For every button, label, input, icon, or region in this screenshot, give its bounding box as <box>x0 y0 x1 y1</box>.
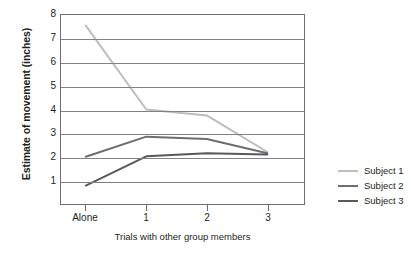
legend-color-swatch <box>338 170 358 172</box>
gridline <box>61 134 304 135</box>
y-tick-label: 4 <box>40 105 56 115</box>
line-chart-figure: Estimate of movement (inches) 12345678 A… <box>0 0 411 255</box>
legend-label: Subject 1 <box>364 165 404 176</box>
x-tick-label: 3 <box>238 212 298 223</box>
x-tick-mark <box>268 205 269 211</box>
y-axis-title: Estimate of movement (inches) <box>20 6 32 202</box>
x-tick-mark <box>146 205 147 211</box>
legend-color-swatch <box>338 200 358 202</box>
gridline <box>61 158 304 159</box>
x-tick-label: Alone <box>55 212 115 223</box>
x-tick-label: 1 <box>116 212 176 223</box>
series-line-1 <box>86 26 268 152</box>
y-tick-label: 3 <box>40 128 56 138</box>
gridline <box>61 111 304 112</box>
legend-label: Subject 3 <box>364 195 404 206</box>
plot-area <box>60 14 305 205</box>
y-tick-label: 6 <box>40 57 56 67</box>
gridline <box>61 87 304 88</box>
y-tick-label: 1 <box>40 176 56 186</box>
x-tick-mark <box>85 205 86 211</box>
y-tick-label: 5 <box>40 81 56 91</box>
gridline <box>61 63 304 64</box>
chart-legend: Subject 1Subject 2Subject 3 <box>338 163 404 208</box>
y-tick-label: 7 <box>40 33 56 43</box>
legend-color-swatch <box>338 185 358 187</box>
y-tick-label: 8 <box>40 9 56 19</box>
legend-item[interactable]: Subject 1 <box>338 163 404 178</box>
x-tick-label: 2 <box>177 212 237 223</box>
series-lines <box>61 15 304 204</box>
legend-label: Subject 2 <box>364 180 404 191</box>
legend-item[interactable]: Subject 2 <box>338 178 404 193</box>
y-axis-tick-labels: 12345678 <box>36 0 56 255</box>
x-axis-title: Trials with other group members <box>60 231 305 242</box>
legend-item[interactable]: Subject 3 <box>338 193 404 208</box>
gridline <box>61 182 304 183</box>
x-tick-mark <box>207 205 208 211</box>
y-tick-label: 2 <box>40 152 56 162</box>
gridline <box>61 39 304 40</box>
